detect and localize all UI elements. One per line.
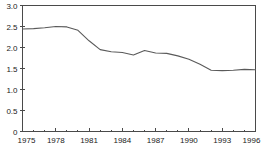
y-tick-label-0: 3.0: [6, 2, 18, 11]
y-tick-label-4: 1.0: [6, 86, 18, 95]
y-tick-label-1: 2.5: [6, 23, 18, 32]
chart-background: [0, 0, 265, 154]
chart-canvas: 3.02.52.01.51.00.50 19751978198119841987…: [0, 0, 265, 154]
x-tick-label-6: 1993: [213, 136, 231, 145]
x-tick-label-5: 1990: [180, 136, 198, 145]
x-tick-label-0: 1975: [18, 136, 36, 145]
x-tick-label-2: 1981: [80, 136, 98, 145]
y-tick-label-2: 2.0: [6, 44, 18, 53]
y-tick-label-5: 0.5: [6, 107, 18, 116]
x-tick-label-3: 1984: [113, 136, 131, 145]
x-tick-label-1: 1978: [47, 136, 65, 145]
y-tick-label-3: 1.5: [6, 65, 18, 74]
x-tick-label-7: 1996: [243, 136, 261, 145]
x-tick-label-4: 1987: [147, 136, 165, 145]
line-chart: 3.02.52.01.51.00.50 19751978198119841987…: [0, 0, 265, 154]
